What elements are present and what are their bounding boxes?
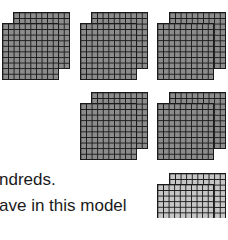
hundred-flat-front (80, 23, 137, 80)
body-text-line-2: ave in this model (0, 197, 127, 214)
hundred-flat-front (2, 23, 59, 80)
hundred-flat-front (157, 23, 214, 80)
hundred-flat-front (157, 103, 214, 160)
hundred-flat-front (80, 103, 137, 160)
body-text-line-1: ndreds. (0, 171, 56, 188)
hundred-flat-front-light (157, 184, 214, 218)
